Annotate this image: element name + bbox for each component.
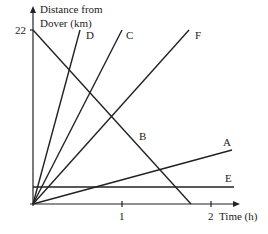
tick-label-22: 22 — [15, 24, 26, 36]
series-label-E: E — [225, 172, 232, 184]
series-label-A: A — [223, 136, 231, 148]
tick-label-2: 2 — [208, 210, 214, 222]
tick-label-1: 1 — [119, 210, 125, 222]
x-axis-arrow-icon — [233, 201, 240, 207]
series-label-D: D — [86, 29, 94, 41]
distance-time-graph: Distance from Dover (km) 22 1 2 Time (h)… — [0, 0, 268, 234]
series-lines — [33, 30, 234, 204]
line-C — [33, 30, 122, 204]
y-axis-label-line2: Dover (km) — [40, 17, 92, 30]
y-axis-arrow-icon — [30, 6, 36, 13]
x-axis-label: Time (h) — [219, 210, 258, 223]
series-label-C: C — [126, 29, 133, 41]
line-A — [33, 150, 232, 204]
y-axis-label-line1: Distance from — [40, 3, 103, 15]
series-label-F: F — [195, 29, 201, 41]
series-label-B: B — [139, 130, 146, 142]
